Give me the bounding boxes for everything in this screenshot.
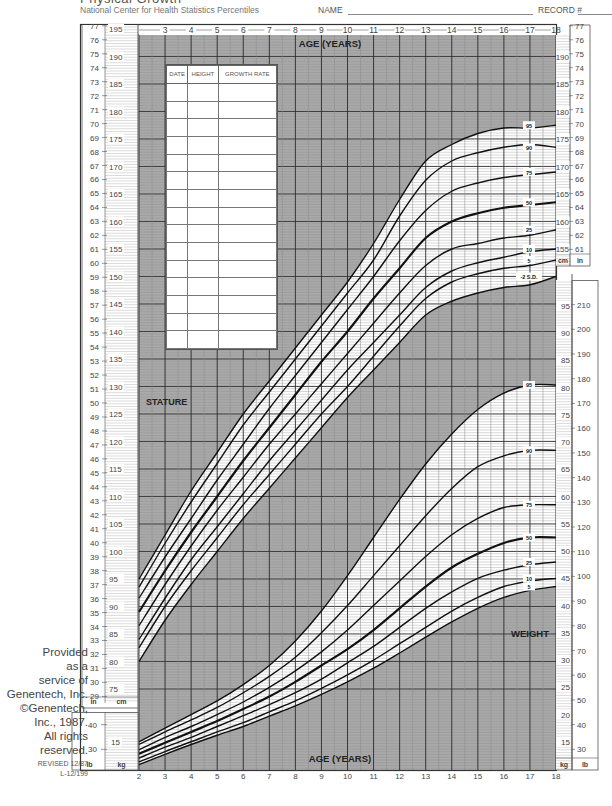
table-cell[interactable]: [218, 189, 276, 207]
left-cm-tick: 175: [109, 135, 123, 144]
left-cm-tick: 110: [109, 493, 122, 502]
table-cell[interactable]: [218, 207, 276, 225]
left-in-tick: 55: [90, 329, 99, 338]
table-cell[interactable]: [167, 119, 188, 137]
table-cell[interactable]: [218, 313, 276, 331]
right-in-tick: 63: [575, 217, 584, 226]
table-row: [167, 172, 277, 190]
table-cell[interactable]: [167, 295, 188, 313]
left-kg-tick: 15: [111, 738, 120, 747]
table-cell[interactable]: [218, 101, 276, 119]
table-cell[interactable]: [218, 295, 276, 313]
table-cell[interactable]: [218, 242, 276, 260]
table-cell[interactable]: [218, 154, 276, 172]
left-in-tick: 58: [90, 287, 99, 296]
credit-line: as a: [0, 659, 88, 673]
left-in-tick: 47: [90, 441, 99, 450]
table-cell[interactable]: [188, 189, 218, 207]
top-age-tick: 10: [343, 25, 353, 35]
bottom-age-tick: 3: [163, 772, 168, 781]
table-cell[interactable]: [167, 101, 188, 119]
table-row: [167, 313, 277, 331]
table-cell[interactable]: [167, 172, 188, 190]
left-in-tick: 45: [90, 469, 99, 478]
revised-label: REVISED 12/87: [0, 759, 88, 769]
left-in-tick: 53: [90, 357, 99, 366]
table-cell[interactable]: [167, 207, 188, 225]
table-cell[interactable]: [188, 84, 218, 102]
table-cell[interactable]: [167, 242, 188, 260]
table-cell[interactable]: [188, 313, 218, 331]
bottom-age-tick: 6: [241, 772, 246, 781]
table-cell[interactable]: [218, 278, 276, 296]
percentile-label: 5: [527, 258, 530, 264]
left-in-tick: 69: [90, 134, 99, 143]
percentile-label: -2 S.D.: [520, 274, 538, 280]
left-cm-tick: 160: [109, 218, 123, 227]
table-cell[interactable]: [167, 154, 188, 172]
right-lb-tick: 160: [577, 424, 591, 433]
left-in-tick: 73: [90, 78, 99, 87]
left-cm-tick: 75: [109, 685, 118, 694]
table-cell[interactable]: [167, 136, 188, 154]
percentile-label: 25: [526, 227, 532, 233]
bottom-age-tick: 15: [473, 772, 482, 781]
age-label-top: AGE (YEARS): [299, 38, 361, 49]
percentile-label: 95: [526, 123, 532, 129]
table-cell[interactable]: [188, 136, 218, 154]
percentile-label: 25: [526, 560, 532, 566]
table-cell[interactable]: [218, 172, 276, 190]
left-cm-tick: 85: [109, 630, 118, 639]
table-cell[interactable]: [188, 225, 218, 243]
table-row: [167, 225, 277, 243]
table-cell[interactable]: [188, 260, 218, 278]
table-cell[interactable]: [188, 278, 218, 296]
table-cell[interactable]: [218, 136, 276, 154]
left-in-tick: 51: [90, 385, 99, 394]
table-cell[interactable]: [188, 172, 218, 190]
right-kg-tick: 70: [561, 438, 570, 447]
right-cm-unit: cm: [558, 257, 568, 264]
table-cell[interactable]: [167, 260, 188, 278]
table-cell[interactable]: [218, 119, 276, 137]
stature-label: STATURE: [146, 397, 187, 407]
table-cell[interactable]: [218, 260, 276, 278]
table-cell[interactable]: [188, 331, 218, 349]
top-age-tick: 6: [241, 25, 246, 35]
top-age-tick: 3: [163, 25, 168, 35]
table-cell[interactable]: [167, 278, 188, 296]
table-cell[interactable]: [218, 225, 276, 243]
table-cell[interactable]: [188, 242, 218, 260]
left-in-tick: 70: [90, 120, 99, 129]
table-cell[interactable]: [188, 154, 218, 172]
table-cell[interactable]: [167, 84, 188, 102]
table-cell[interactable]: [188, 119, 218, 137]
table-cell[interactable]: [167, 313, 188, 331]
table-cell[interactable]: [167, 189, 188, 207]
table-cell[interactable]: [218, 84, 276, 102]
table-cell[interactable]: [167, 331, 188, 349]
left-in-tick: 66: [90, 175, 99, 184]
left-cm-tick: 180: [109, 108, 123, 117]
table-row: [167, 154, 277, 172]
left-in-tick: 30: [90, 678, 99, 687]
bottom-age-tick: 17: [525, 772, 534, 781]
left-in-tick: 43: [90, 497, 99, 506]
left-cm-tick: 95: [109, 575, 118, 584]
left-in-tick: 71: [90, 106, 99, 115]
left-cm-tick: 135: [109, 355, 123, 364]
top-age-tick: 4: [189, 25, 194, 35]
right-in-tick: 62: [575, 231, 584, 240]
percentile-label: 90: [526, 145, 532, 151]
table-cell[interactable]: [167, 225, 188, 243]
left-lb-tick: 40: [88, 721, 97, 730]
left-in-tick: 75: [90, 50, 99, 59]
table-cell[interactable]: [188, 101, 218, 119]
right-lb-tick: 130: [577, 498, 591, 507]
table-cell[interactable]: [218, 331, 276, 349]
table-cell[interactable]: [188, 207, 218, 225]
right-lb-tick: 80: [577, 622, 586, 631]
left-in-tick: 62: [90, 231, 99, 240]
right-kg-tick: 60: [561, 493, 570, 502]
table-cell[interactable]: [188, 295, 218, 313]
